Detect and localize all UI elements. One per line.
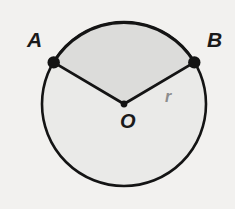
point-b-label: B	[207, 29, 222, 50]
circle-sector-figure: A B O r	[0, 0, 235, 209]
point-b-dot	[188, 56, 200, 68]
radius-label: r	[165, 89, 171, 105]
center-point-dot	[121, 101, 128, 108]
point-a-label: A	[27, 29, 42, 50]
center-label: O	[120, 111, 136, 131]
point-a-dot	[48, 56, 60, 68]
